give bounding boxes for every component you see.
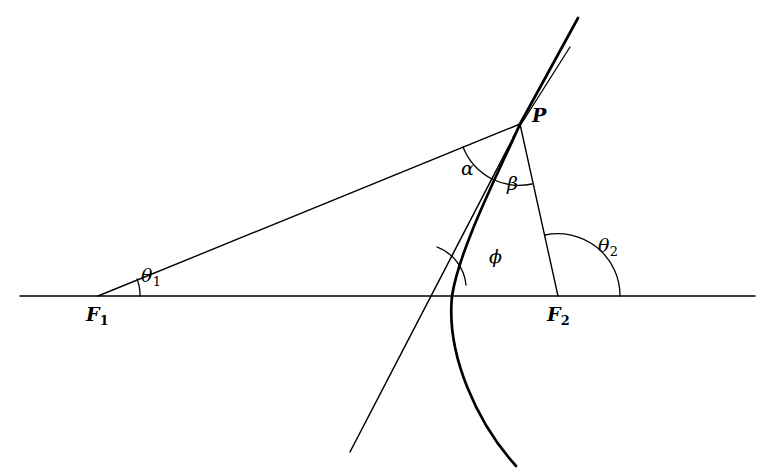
label-angle-alpha: α xyxy=(461,159,474,178)
label-angle-theta1: θ1 xyxy=(141,266,161,285)
label-angle-phi: ϕ xyxy=(489,247,502,266)
diagram-canvas xyxy=(0,0,768,476)
geometry-figure: F1 F2 P θ1 θ2 α β ϕ xyxy=(0,0,768,476)
segment-f1-p xyxy=(98,124,520,296)
label-point-p: P xyxy=(532,106,546,125)
segment-p-f2 xyxy=(520,124,558,296)
line-through-p-lower-left xyxy=(350,117,524,452)
angle-arc-theta1 xyxy=(137,279,140,296)
label-point-f2: F2 xyxy=(547,305,569,324)
conic-curve xyxy=(451,18,578,466)
label-angle-theta2: θ2 xyxy=(598,236,618,255)
angle-arc-phi xyxy=(437,247,466,285)
label-angle-beta: β xyxy=(507,174,518,193)
label-point-f1: F1 xyxy=(86,305,108,324)
